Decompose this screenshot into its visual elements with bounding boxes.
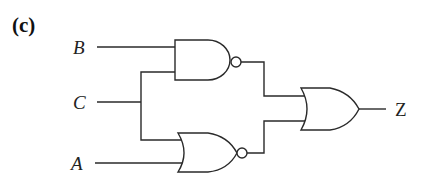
nand-body — [175, 40, 230, 80]
wire-nand-to-or — [241, 62, 305, 96]
nor-body — [178, 133, 237, 172]
output-label-z: Z — [395, 99, 407, 120]
nand-gate — [175, 40, 241, 80]
nand-inversion-bubble — [231, 57, 241, 67]
input-label-b: B — [73, 37, 85, 58]
input-label-c: C — [73, 92, 86, 113]
input-label-a: A — [69, 153, 83, 174]
logic-circuit-diagram: (c) B C A Z — [0, 0, 443, 190]
nor-inversion-bubble — [237, 148, 247, 158]
or-body — [301, 88, 359, 130]
wire-nor-to-or — [247, 121, 305, 153]
part-label: (c) — [12, 13, 35, 37]
or-gate — [301, 88, 359, 130]
wire-c-branch — [141, 72, 183, 140]
nor-gate — [178, 133, 247, 172]
